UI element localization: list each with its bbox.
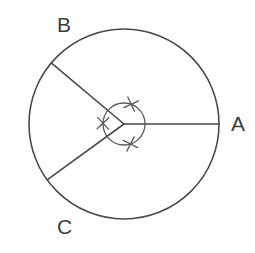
vertex-label-b: B: [57, 14, 71, 35]
radius-oc: [47, 124, 124, 180]
tick-mark-coa: [123, 137, 137, 151]
geometry-figure: A B C: [0, 0, 255, 253]
vertex-label-c: C: [57, 216, 72, 237]
geometry-canvas: [0, 0, 255, 253]
vertex-label-a: A: [231, 113, 245, 134]
tick-mark-aob: [124, 97, 139, 112]
radius-ob: [51, 63, 124, 124]
